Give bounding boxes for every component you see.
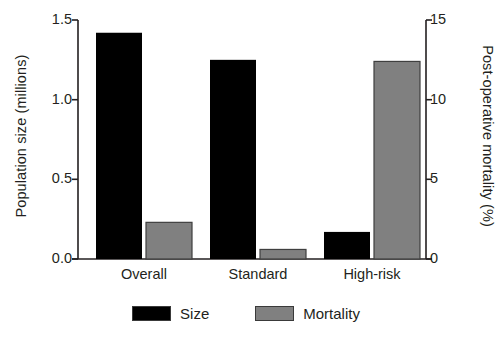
bar-high-risk-size <box>324 232 370 259</box>
bar-standard-mortality <box>260 249 306 259</box>
chart-legend: Size Mortality <box>0 305 492 322</box>
legend-swatch-mortality <box>255 306 294 321</box>
bar-overall-mortality <box>146 222 192 259</box>
x-axis-category-overall: Overall <box>86 266 202 282</box>
legend-swatch-size <box>132 306 171 321</box>
legend-item-mortality: Mortality <box>255 305 360 322</box>
x-axis-category-standard: Standard <box>200 266 316 282</box>
bar-group <box>96 33 420 259</box>
legend-label-size: Size <box>180 305 209 322</box>
x-axis-category-high-risk: High-risk <box>314 266 430 282</box>
bar-overall-size <box>96 33 142 259</box>
legend-item-size: Size <box>132 305 209 322</box>
bar-standard-size <box>210 60 256 259</box>
bar-high-risk-mortality <box>374 61 420 259</box>
legend-label-mortality: Mortality <box>303 305 360 322</box>
